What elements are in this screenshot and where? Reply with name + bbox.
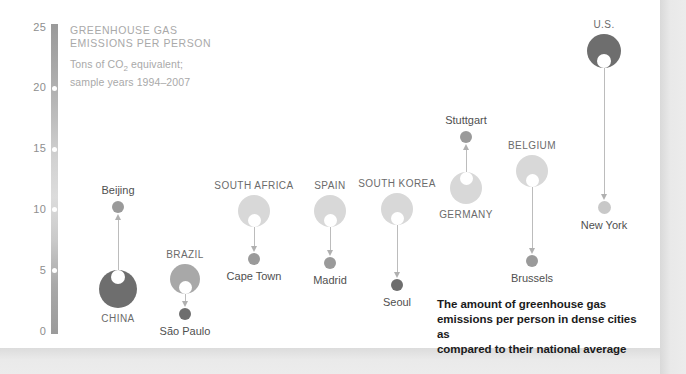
city-label: Brussels (511, 272, 553, 284)
city-marker[interactable] (112, 201, 124, 213)
chart-title-block: GREENHOUSE GAS EMISSIONS PER PERSON Tons… (70, 24, 260, 89)
caption-line-3: compared to their national average (437, 342, 652, 357)
country-marker-notch (526, 174, 539, 187)
country-label: BELGIUM (508, 140, 556, 151)
chart-title-line-1: GREENHOUSE GAS (70, 24, 260, 37)
subtitle-units-post: equivalent; (128, 58, 183, 70)
chart-subtitle-line-2: sample years 1994–2007 (70, 76, 260, 90)
country-label: SOUTH AFRICA (214, 180, 293, 191)
y-axis-gradient-bar (51, 24, 58, 334)
connector-arrowhead (463, 144, 469, 150)
city-marker[interactable] (526, 255, 538, 267)
caption-line-1: The amount of greenhouse gas (437, 297, 652, 312)
city-marker[interactable] (324, 257, 336, 269)
y-axis-tick-0: 0 (6, 325, 46, 337)
connector-line (532, 181, 533, 248)
connector-arrowhead (251, 246, 257, 252)
connector-arrowhead (601, 194, 607, 200)
y-axis-tick-15: 15 (6, 142, 46, 154)
country-label: GERMANY (439, 209, 493, 220)
y-axis-tick-25: 25 (6, 21, 46, 33)
connector-arrowhead (327, 250, 333, 256)
city-label: Madrid (313, 274, 347, 286)
country-marker-notch (248, 214, 261, 227)
city-marker[interactable] (460, 131, 472, 143)
y-axis-tick-20: 20 (6, 81, 46, 93)
y-axis-tick-dot-15 (52, 147, 57, 152)
country-label: BRAZIL (166, 249, 204, 260)
city-marker[interactable] (248, 253, 260, 265)
country-marker-notch (324, 214, 337, 227)
city-label: Beijing (101, 184, 134, 196)
y-axis-tick-dot-20 (52, 86, 57, 91)
country-label: CHINA (101, 313, 134, 324)
connector-line (604, 61, 605, 194)
city-label: Cape Town (227, 270, 282, 282)
country-marker-notch (597, 54, 611, 68)
connector-line (118, 220, 119, 276)
country-marker-notch (111, 270, 125, 284)
city-label: New York (581, 219, 627, 231)
connector-line (397, 219, 398, 272)
chart-subtitle-line-1: Tons of CO2 equivalent; (70, 58, 260, 76)
country-marker-notch (391, 212, 404, 225)
city-marker[interactable] (179, 308, 191, 320)
chart-title-line-2: EMISSIONS PER PERSON (70, 37, 260, 50)
chart-title: GREENHOUSE GAS EMISSIONS PER PERSON (70, 24, 260, 50)
connector-arrowhead (115, 214, 121, 220)
y-axis-tick-5: 5 (6, 264, 46, 276)
city-label: São Paulo (160, 325, 211, 337)
country-marker-notch (460, 172, 473, 185)
connector-arrowhead (394, 272, 400, 278)
city-marker[interactable] (391, 279, 403, 291)
infographic-frame: 2520151050 GREENHOUSE GAS EMISSIONS PER … (0, 0, 686, 374)
caption-line-2: emissions per person in dense cities as (437, 312, 652, 342)
y-axis-tick-labels: 2520151050 (0, 0, 46, 348)
subtitle-units-pre: Tons of CO (70, 58, 124, 70)
connector-arrowhead (529, 248, 535, 254)
city-marker[interactable] (598, 201, 611, 214)
country-marker-notch (179, 281, 192, 294)
chart-subtitle: Tons of CO2 equivalent; sample years 199… (70, 58, 260, 89)
city-label: Stuttgart (445, 114, 487, 126)
frame-shadow-right (660, 0, 686, 374)
country-label: SPAIN (314, 180, 346, 191)
y-axis-tick-10: 10 (6, 203, 46, 215)
chart-panel: 2520151050 GREENHOUSE GAS EMISSIONS PER … (0, 0, 660, 348)
connector-arrowhead (182, 301, 188, 307)
country-label: SOUTH KOREA (358, 178, 436, 189)
chart-caption: The amount of greenhouse gas emissions p… (437, 297, 652, 357)
country-label: U.S. (593, 19, 614, 30)
city-label: Seoul (383, 296, 411, 308)
